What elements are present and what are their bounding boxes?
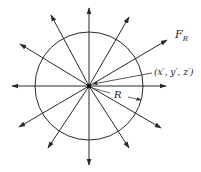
point-coordinates-label: (x′, y′, z′)	[154, 67, 194, 77]
radius-label: R	[113, 89, 122, 100]
field-line-arrow-upper-right-shallow	[89, 40, 167, 86]
field-line-arrow-lower-left-steep	[48, 86, 89, 148]
force-label: FR	[174, 28, 189, 43]
field-line-arrow-lower-right-steep	[89, 86, 129, 148]
field-line-arrow-upper-right-steep	[89, 17, 129, 86]
field-line-arrow-upper-left-steep	[51, 15, 89, 86]
field-line-arrow-upper-left-shallow	[20, 44, 89, 86]
field-line-arrow-lower-right-shallow	[89, 86, 161, 128]
radial-field-diagram: FR (x′, y′, z′) R	[0, 0, 201, 172]
source-point	[87, 84, 91, 88]
radius-dimension-left	[92, 88, 110, 93]
radius-dimension-right	[128, 97, 141, 100]
field-line-arrow-lower-left-shallow	[19, 86, 89, 127]
